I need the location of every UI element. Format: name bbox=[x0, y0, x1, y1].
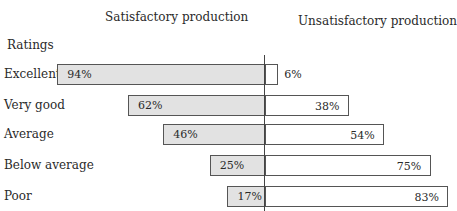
bar-value-label: 94% bbox=[67, 68, 91, 81]
category-label: Below average bbox=[4, 158, 94, 172]
satisfactory-bar: 25% bbox=[210, 155, 265, 176]
category-label: Poor bbox=[4, 189, 32, 203]
category-label: Excellent bbox=[4, 67, 61, 81]
left-series-title: Satisfactory production bbox=[105, 10, 248, 24]
satisfactory-bar: 17% bbox=[227, 186, 265, 207]
bar-value-label: 46% bbox=[173, 128, 197, 141]
bar-value-label: 25% bbox=[220, 159, 244, 172]
satisfactory-bar: 62% bbox=[128, 95, 265, 116]
bar-value-label: 38% bbox=[315, 100, 339, 113]
center-axis-line bbox=[264, 55, 265, 211]
category-axis-title: Ratings bbox=[7, 38, 54, 52]
bar-value-label: 62% bbox=[138, 99, 162, 112]
satisfactory-bar: 94% bbox=[57, 64, 265, 85]
bar-value-label: 75% bbox=[397, 160, 421, 173]
unsatisfactory-bar bbox=[265, 64, 278, 85]
right-series-title: Unsatisfactory production bbox=[298, 14, 457, 28]
bar-value-label: 17% bbox=[237, 190, 261, 203]
category-label: Average bbox=[4, 127, 54, 141]
bar-value-label: 54% bbox=[350, 129, 374, 142]
bar-value-label: 6% bbox=[284, 68, 301, 81]
bar-value-label: 83% bbox=[414, 191, 438, 204]
category-label: Very good bbox=[4, 98, 65, 112]
satisfactory-bar: 46% bbox=[163, 124, 265, 145]
